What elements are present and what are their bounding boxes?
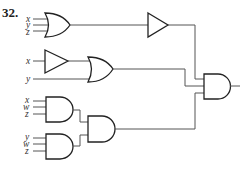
label-z: z [24, 109, 29, 119]
and-gate-final [204, 74, 230, 99]
label-x: x [25, 56, 31, 66]
or-gate-top [45, 13, 70, 37]
input-labels-or-mid: x y [25, 56, 31, 84]
label-y: y [25, 74, 31, 84]
input-labels-or-top: x y z [25, 14, 31, 37]
and-gate-b [46, 134, 73, 159]
input-labels-and-b: y w z [23, 132, 30, 156]
buffer-gate-mid [45, 50, 68, 73]
label-z: z [24, 146, 29, 156]
label-z: z [25, 27, 30, 37]
buffer-gate-top [148, 13, 168, 37]
and-gate-a [46, 97, 73, 122]
or-gate-mid [88, 57, 113, 82]
logic-circuit-diagram: x y z x y x w z y w z [0, 0, 251, 173]
and-gate-c [88, 116, 115, 142]
input-labels-and-a: x w z [23, 95, 30, 119]
